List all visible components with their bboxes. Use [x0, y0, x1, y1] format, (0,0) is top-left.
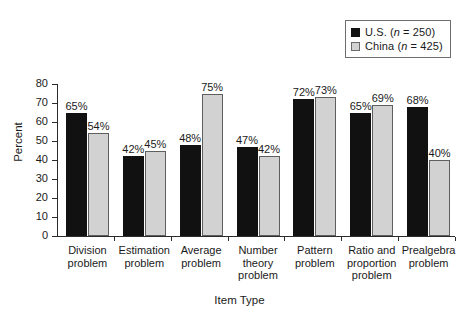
category-label: Estimationproblem: [116, 244, 173, 269]
x-tick: [284, 237, 285, 241]
bar-value-label: 69%: [372, 92, 394, 104]
category-label: Divisionproblem: [59, 244, 116, 269]
y-tick-label-70: 70: [36, 96, 48, 108]
bar-china-3: 42%: [259, 156, 280, 236]
bar-value-label: 72%: [293, 86, 315, 98]
bar-value-label: 42%: [258, 143, 280, 155]
y-tick-10: 10: [52, 217, 57, 218]
category-label-line: problem: [343, 269, 400, 282]
category-label-line: proportion: [343, 257, 400, 270]
y-tick-label-60: 60: [36, 115, 48, 127]
category-label-line: problem: [230, 269, 287, 282]
category-label: Numbertheoryproblem: [230, 244, 287, 282]
bar-china-5: 69%: [372, 105, 393, 236]
x-tick: [341, 237, 342, 241]
y-axis-title: Percent: [12, 112, 24, 172]
y-tick-label-30: 30: [36, 172, 48, 184]
legend-label-us: U.S. (n = 250): [365, 26, 435, 39]
category-label-line: Prealgebra: [400, 244, 457, 257]
bar-us-6: 68%: [407, 107, 428, 236]
y-tick-40: 40: [52, 160, 57, 161]
x-tick: [228, 237, 229, 241]
y-tick-50: 50: [52, 141, 57, 142]
y-tick-label-20: 20: [36, 191, 48, 203]
bar-value-label: 47%: [236, 134, 258, 146]
bar-value-label: 48%: [179, 132, 201, 144]
y-axis-line: [57, 84, 58, 237]
bar-china-2: 75%: [202, 94, 223, 237]
category-label-line: Number: [230, 244, 287, 257]
plot-area: 80706050403020100 65%54%42%45%48%75%47%4…: [57, 84, 455, 236]
category-label-line: Ratio and: [343, 244, 400, 257]
bar-china-6: 40%: [429, 160, 450, 236]
bar-value-label: 40%: [429, 147, 451, 159]
bar-us-2: 48%: [180, 145, 201, 236]
y-tick-70: 70: [52, 103, 57, 104]
bar-group: 47%42%: [237, 84, 280, 236]
category-label-line: problem: [400, 257, 457, 270]
category-label-line: theory: [230, 257, 287, 270]
y-tick-30: 30: [52, 179, 57, 180]
category-label: Ratio andproportionproblem: [343, 244, 400, 282]
category-label-line: Estimation: [116, 244, 173, 257]
bar-value-label: 75%: [201, 81, 223, 93]
bar-value-label: 65%: [65, 100, 87, 112]
x-tick: [398, 237, 399, 241]
bar-us-5: 65%: [350, 113, 371, 237]
bar-group: 48%75%: [180, 84, 223, 236]
category-label-line: Division: [59, 244, 116, 257]
bar-value-label: 42%: [122, 143, 144, 155]
legend-swatch-us-icon: [351, 28, 360, 37]
legend-item-china: China (n = 425): [351, 39, 443, 53]
x-tick: [171, 237, 172, 241]
category-label-line: problem: [59, 257, 116, 270]
bar-china-0: 54%: [88, 133, 109, 236]
category-label: Averageproblem: [173, 244, 230, 269]
category-label: Prealgebraproblem: [400, 244, 457, 269]
bar-group: 72%73%: [293, 84, 336, 236]
y-tick-label-10: 10: [36, 210, 48, 222]
bar-us-3: 47%: [237, 147, 258, 236]
category-label-line: problem: [286, 257, 343, 270]
bar-value-label: 68%: [407, 94, 429, 106]
bar-us-0: 65%: [66, 113, 87, 237]
category-label-line: Pattern: [286, 244, 343, 257]
legend-swatch-china-icon: [351, 42, 360, 51]
y-tick-0: 0: [52, 236, 57, 237]
legend-item-us: U.S. (n = 250): [351, 25, 443, 39]
legend-label-china: China (n = 425): [365, 40, 443, 53]
bar-us-1: 42%: [123, 156, 144, 236]
bar-value-label: 45%: [144, 138, 166, 150]
category-label-line: problem: [116, 257, 173, 270]
y-tick-60: 60: [52, 122, 57, 123]
category-label: Patternproblem: [286, 244, 343, 269]
x-axis-title: Item Type: [0, 294, 469, 306]
y-tick-label-0: 0: [42, 229, 48, 241]
category-label-line: problem: [173, 257, 230, 270]
bar-chart-figure: U.S. (n = 250) China (n = 425) Percent 8…: [0, 0, 469, 323]
chart-legend: U.S. (n = 250) China (n = 425): [345, 20, 451, 58]
category-label-line: Average: [173, 244, 230, 257]
bar-us-4: 72%: [293, 99, 314, 236]
bar-value-label: 54%: [87, 120, 109, 132]
bar-group: 65%69%: [350, 84, 393, 236]
y-tick-20: 20: [52, 198, 57, 199]
y-tick-label-50: 50: [36, 134, 48, 146]
y-tick-label-80: 80: [36, 77, 48, 89]
x-tick: [455, 237, 456, 241]
bar-value-label: 73%: [315, 84, 337, 96]
bar-group: 42%45%: [123, 84, 166, 236]
bar-group: 65%54%: [66, 84, 109, 236]
bar-china-4: 73%: [315, 97, 336, 236]
bar-value-label: 65%: [350, 100, 372, 112]
x-tick: [114, 237, 115, 241]
y-tick-80: 80: [52, 84, 57, 85]
bar-china-1: 45%: [145, 151, 166, 237]
x-axis-line: [57, 236, 455, 237]
bar-group: 68%40%: [407, 84, 450, 236]
y-tick-label-40: 40: [36, 153, 48, 165]
